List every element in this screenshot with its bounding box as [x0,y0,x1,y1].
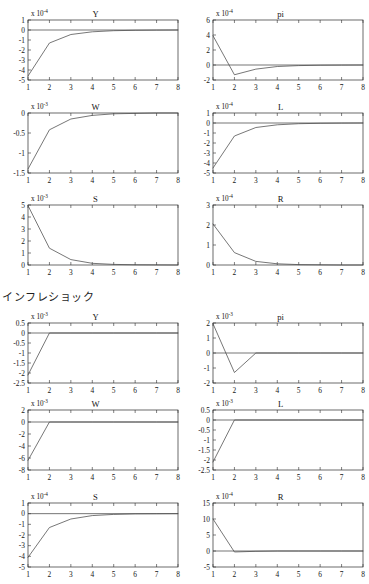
x-tick-label: 6 [133,83,137,92]
data-series-line [28,333,178,375]
x-tick-label: 3 [254,570,258,579]
y-tick-label: -2.5 [13,379,25,388]
x-tick-label: 8 [361,176,365,185]
y-tick-label: -4 [19,442,25,451]
x-tick-label: 4 [90,83,94,92]
x-tick-label: 6 [318,386,322,395]
x-tick-label: 6 [318,83,322,92]
y-tick-label: -8 [19,466,25,475]
x-tick-label: 2 [233,386,237,395]
y-axis-multiplier: x 10-4 [216,491,233,501]
x-tick-label: 7 [155,83,159,92]
y-tick-label: -1 [204,436,210,445]
panel-title: Y [92,9,98,19]
y-tick-label: -1.5 [13,169,25,178]
x-tick-label: 5 [297,386,301,395]
y-tick-label: 10 [203,515,211,524]
axes-frame [28,113,178,173]
x-tick-label: 5 [297,176,301,185]
axes-frame [213,20,363,80]
x-tick-label: 2 [48,570,52,579]
y-tick-label: -1 [204,364,210,373]
x-tick-label: 2 [48,386,52,395]
x-tick-label: 8 [176,83,180,92]
y-tick-label: -2 [204,76,210,85]
y-tick-label: 0.5 [201,406,211,415]
x-tick-label: 8 [176,268,180,277]
y-tick-label: -1 [19,149,25,158]
x-tick-label: 8 [176,176,180,185]
y-axis-multiplier: x 10-3 [216,398,233,408]
y-tick-label: 0 [206,119,210,128]
x-tick-label: 5 [112,176,116,185]
chart-panel-s-10: x 10-4S10-1-2-3-4-512345678 [0,489,184,581]
data-series-line [213,36,363,75]
chart-panel-w-2: x 10-3W0-0.5-1-1.512345678 [0,99,184,187]
y-tick-label: -2 [19,369,25,378]
x-tick-label: 1 [26,570,30,579]
x-tick-label: 4 [90,473,94,482]
data-series-line [28,30,178,76]
y-axis-multiplier: x 10-3 [216,311,233,321]
x-tick-label: 8 [176,386,180,395]
chart-panel-s-4: x 10-3S54321012345678 [0,191,184,279]
y-tick-label: -2 [204,456,210,465]
x-tick-label: 3 [69,570,73,579]
y-axis-multiplier: x 10-3 [31,101,48,111]
chart-panel-r-11: x 10-4R151050-512345678 [185,489,369,581]
x-tick-label: 4 [90,386,94,395]
x-tick-label: 5 [297,268,301,277]
x-tick-label: 1 [211,83,215,92]
x-tick-label: 7 [340,268,344,277]
x-tick-label: 2 [48,83,52,92]
y-tick-label: -4 [19,552,25,561]
x-tick-label: 2 [233,473,237,482]
y-tick-label: 15 [203,499,211,508]
x-tick-label: 7 [155,570,159,579]
figure-sheet: インフレショック x 10-4Y10-1-2-3-4-512345678x 10… [0,0,369,584]
x-tick-label: 1 [211,386,215,395]
x-tick-label: 6 [133,473,137,482]
panel-title: Y [92,312,98,322]
axes-frame [28,410,178,470]
x-tick-label: 4 [275,570,279,579]
x-tick-label: 1 [211,570,215,579]
panel-title: S [93,194,98,204]
y-axis-multiplier: x 10-4 [216,8,233,18]
panel-title: W [91,399,100,409]
x-tick-label: 1 [211,176,215,185]
x-tick-label: 7 [340,386,344,395]
x-tick-label: 5 [112,570,116,579]
y-tick-label: 2 [21,237,25,246]
panel-title: pi [277,9,284,19]
panel-title: pi [277,312,284,322]
x-tick-label: 1 [26,83,30,92]
y-tick-label: 1 [206,241,210,250]
panel-title: S [93,492,98,502]
y-tick-label: 1 [21,16,25,25]
y-tick-label: -4 [19,66,25,75]
x-tick-label: 4 [275,473,279,482]
y-tick-label: -4 [204,159,210,168]
chart-panel-pi-1: x 10-4pi6420-212345678 [185,6,369,94]
y-tick-label: 0 [206,61,210,70]
data-series-line [28,514,178,558]
x-tick-label: 5 [297,83,301,92]
y-tick-label: 6 [206,16,210,25]
y-tick-label: -2 [204,139,210,148]
axes-frame [213,410,363,470]
x-tick-label: 6 [318,176,322,185]
y-tick-label: -6 [19,454,25,463]
y-axis-multiplier: x 10-4 [216,101,233,111]
x-tick-label: 1 [26,473,30,482]
y-tick-label: 2 [206,319,210,328]
x-tick-label: 7 [155,473,159,482]
data-series-line [213,123,363,168]
y-tick-label: -5 [19,563,25,572]
y-tick-label: 1 [206,109,210,118]
y-tick-label: -3 [19,541,25,550]
x-tick-label: 6 [318,570,322,579]
x-tick-label: 1 [26,268,30,277]
x-tick-label: 4 [90,570,94,579]
y-tick-label: 0 [21,26,25,35]
